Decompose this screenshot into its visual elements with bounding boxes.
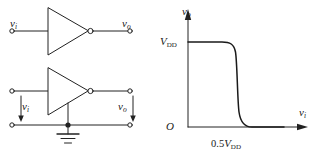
y-axis-label: vo [182, 6, 191, 17]
vtc-curve [188, 42, 284, 127]
top-inverter-bubble [88, 28, 93, 33]
y-tick-label-vdd: VDD [160, 36, 177, 47]
bottom-output-terminal [128, 89, 132, 93]
x-axis-label: vi [299, 107, 306, 118]
bottom-left-return-terminal [10, 123, 14, 127]
bottom-input-label: vi [22, 101, 29, 112]
circuit-panel: vi vo vi vo [0, 0, 160, 157]
bottom-output-label: vo [118, 101, 127, 112]
circuit-schematic [0, 0, 160, 157]
x-axis-arrow [297, 124, 308, 130]
bottom-input-terminal [10, 89, 14, 93]
top-inverter-triangle [48, 8, 88, 55]
top-input-terminal [10, 29, 14, 33]
top-input-label: vi [10, 18, 17, 29]
bottom-inverter-bubble [88, 88, 93, 93]
figure-root: vi vo vi vo vo vi VDD O 0.5VDD [0, 0, 320, 157]
origin-label: O [166, 121, 174, 132]
top-output-label: vo [122, 18, 131, 29]
plot-panel: vo vi VDD O 0.5VDD [160, 0, 320, 157]
x-tick-label-half-vdd: 0.5VDD [211, 134, 241, 150]
port-arrow-right-head [130, 116, 136, 123]
bottom-right-return-terminal [128, 123, 132, 127]
port-arrow-left-head [18, 116, 24, 123]
